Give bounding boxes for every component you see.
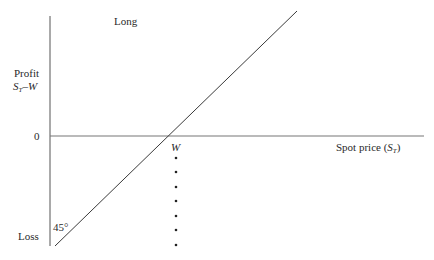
zero-label: 0 bbox=[34, 130, 40, 142]
y-axis-label-loss: Loss bbox=[18, 230, 39, 242]
strike-dotted-line bbox=[175, 157, 178, 247]
strike-price-label: W bbox=[171, 141, 180, 153]
y-axis-formula: ST–W bbox=[13, 80, 37, 96]
y-axis-label-profit: Profit bbox=[14, 67, 39, 79]
diagram-title: Long bbox=[114, 15, 137, 27]
x-axis-label: Spot price (ST) bbox=[336, 141, 400, 157]
angle-label: 45° bbox=[53, 221, 68, 233]
payoff-line bbox=[55, 11, 297, 246]
